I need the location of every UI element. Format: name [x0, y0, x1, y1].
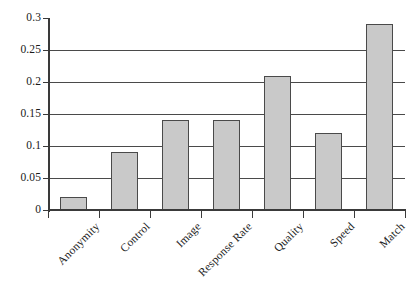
- bar: [366, 24, 393, 210]
- y-tick-label: 0: [1, 204, 41, 216]
- x-tick-mark: [252, 211, 253, 218]
- x-axis-label: Match: [377, 220, 407, 250]
- y-tick-label: 0.05: [1, 172, 41, 184]
- x-tick-mark: [99, 211, 100, 218]
- bar-chart: 00.050.10.150.20.250.3 AnonymityControlI…: [0, 0, 418, 301]
- x-axis-label: Quality: [271, 220, 305, 254]
- x-axis-label: Speed: [327, 220, 356, 249]
- plot-area: [48, 18, 405, 210]
- gridline: [48, 114, 405, 115]
- x-axis-line: [48, 209, 406, 211]
- x-axis-label: Response Rate: [196, 220, 254, 278]
- x-tick-mark: [354, 211, 355, 218]
- gridline: [48, 82, 405, 83]
- x-axis-label: Anonymity: [55, 220, 102, 267]
- y-tick-label: 0.25: [1, 44, 41, 56]
- x-axis-label: Control: [118, 220, 152, 254]
- x-tick-mark: [201, 211, 202, 218]
- bar: [162, 120, 189, 210]
- bar: [213, 120, 240, 210]
- bar: [111, 152, 138, 210]
- y-tick-label: 0.2: [1, 76, 41, 88]
- bar: [264, 76, 291, 210]
- bar: [315, 133, 342, 210]
- y-tick-label: 0.3: [1, 12, 41, 24]
- y-tick-label: 0.1: [1, 140, 41, 152]
- x-tick-mark: [405, 211, 406, 218]
- x-tick-mark: [303, 211, 304, 218]
- gridline: [48, 50, 405, 51]
- y-axis-line: [48, 18, 50, 212]
- x-tick-mark: [150, 211, 151, 218]
- y-tick-label: 0.15: [1, 108, 41, 120]
- x-tick-mark: [48, 211, 49, 218]
- x-axis-label: Image: [174, 220, 204, 250]
